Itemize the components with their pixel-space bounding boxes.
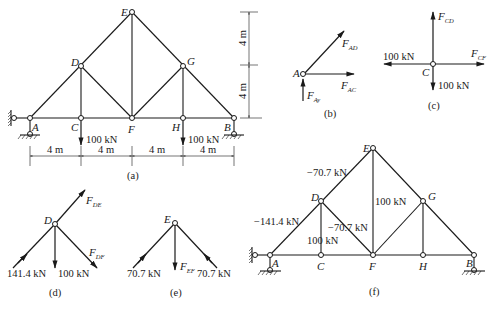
panel-a-truss: A C F H B D G E 100 kN 100 kN 4 m 4 m 4 …: [8, 6, 262, 182]
force-label-de: FDE: [85, 194, 101, 208]
node-label-a: A: [271, 257, 279, 269]
node-label-f: F: [368, 260, 376, 272]
node-label-a: A: [292, 67, 300, 79]
caption-b: (b): [324, 108, 337, 120]
truss-members: [270, 148, 474, 255]
load-label-da: 141.4 kN: [7, 268, 47, 279]
node-label-g: G: [187, 55, 195, 67]
load-label-down: 100 kN: [58, 268, 90, 279]
load-arrow-da: [18, 254, 27, 263]
caption-a: (a): [127, 170, 139, 182]
truss-members: [30, 12, 234, 118]
member-force-de: −70.7 kN: [307, 167, 347, 178]
node-label-h: H: [418, 260, 428, 272]
load-label-left: 100 kN: [383, 51, 415, 62]
node-label-b: B: [466, 257, 473, 269]
force-label-ad: FAD: [341, 37, 358, 51]
force-label-cf: FCF: [470, 47, 487, 61]
load-label-eg: 70.7 kN: [197, 268, 231, 279]
force-arrow-ad: [304, 31, 344, 74]
node-label-c: C: [71, 121, 79, 133]
force-label-cd: FCD: [437, 10, 454, 24]
node-label-h: H: [171, 121, 181, 133]
vertical-dimension-line: [240, 12, 262, 118]
force-label-ef: FEF: [179, 260, 196, 274]
node-label-b: B: [224, 121, 231, 133]
load-label-ed: 70.7 kN: [127, 268, 161, 279]
node-label-d: D: [310, 191, 319, 203]
caption-d: (d): [49, 287, 62, 299]
force-label-df: FDF: [88, 246, 105, 260]
dim-label-cf: 4 m: [98, 144, 114, 155]
node-label-e: E: [362, 142, 370, 154]
node-label-d: D: [70, 56, 79, 68]
truss-nodes: [268, 146, 477, 258]
member-force-ad: −141.4 kN: [254, 216, 299, 227]
node-label-e: E: [120, 6, 128, 18]
force-label-ac: FAC: [340, 79, 357, 93]
load-arrow-eg: [204, 254, 212, 263]
dim-label-fh: 4 m: [149, 144, 165, 155]
node-label-d: D: [43, 214, 52, 226]
panel-e-free-body-e: E FEF 70.7 kN 70.7 kN (e): [127, 213, 231, 299]
dim-label-upper-height: 4 m: [237, 30, 248, 46]
force-label-ay: FAy: [306, 89, 320, 103]
member-force-df: −70.7 kN: [328, 222, 368, 233]
node-label-c: C: [317, 260, 325, 272]
panel-c-free-body-c: C FCD FCF 100 kN 100 kN (c): [383, 10, 487, 112]
panel-b-free-body-a: A FAD FAC FAy (b): [292, 31, 358, 120]
dim-label-hb: 4 m: [200, 144, 216, 155]
dim-label-ac: 4 m: [47, 144, 63, 155]
member-force-ef: 100 kN: [375, 196, 407, 207]
node-label-e: E: [163, 213, 171, 225]
caption-c: (c): [428, 100, 440, 112]
panel-f-member-forces: A C F H B D G E −70.7 kN −141.4 kN −70.7…: [249, 142, 485, 298]
caption-e: (e): [170, 287, 182, 299]
dim-label-lower-height: 4 m: [237, 83, 248, 99]
member-force-cd: 100 kN: [307, 235, 339, 246]
node-label-f: F: [127, 123, 135, 135]
node-label-g: G: [428, 190, 436, 202]
load-label-down: 100 kN: [438, 80, 470, 91]
caption-f: (f): [369, 286, 380, 298]
force-arrow-de: [55, 190, 85, 224]
panel-d-free-body-d: D FDE FDF 141.4 kN 100 kN (d): [7, 190, 105, 299]
node-label-a: A: [31, 121, 39, 133]
load-arrow-ed: [138, 254, 146, 263]
node-label-c: C: [422, 66, 430, 78]
truss-figure: A C F H B D G E 100 kN 100 kN 4 m 4 m 4 …: [0, 0, 492, 312]
